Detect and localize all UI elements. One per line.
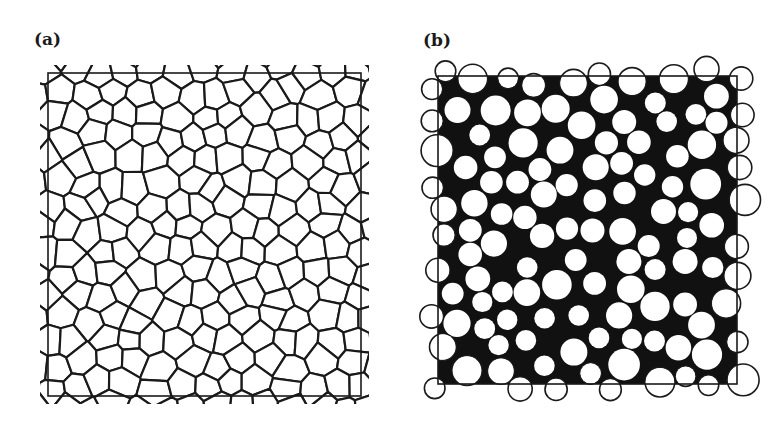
disk xyxy=(465,266,490,291)
foam-cell xyxy=(138,420,175,427)
disk xyxy=(484,146,506,168)
foam-cell xyxy=(271,0,315,62)
disk xyxy=(547,137,574,164)
disk xyxy=(595,131,618,154)
disk xyxy=(458,243,482,267)
foam-cell xyxy=(0,336,39,414)
foam-cell xyxy=(30,415,64,427)
foam-cell xyxy=(324,0,375,58)
disk xyxy=(699,213,724,238)
disk xyxy=(686,104,707,125)
disk xyxy=(565,249,587,271)
foam-cell xyxy=(87,420,111,427)
disk xyxy=(656,111,677,132)
disk xyxy=(692,340,722,370)
disk xyxy=(706,112,728,134)
disk xyxy=(497,310,517,330)
disk xyxy=(469,125,490,146)
disk xyxy=(472,292,492,312)
disk xyxy=(454,156,478,180)
foam-cell xyxy=(181,0,212,62)
disk xyxy=(644,331,665,352)
foam-cell xyxy=(71,0,163,59)
disk xyxy=(509,128,538,157)
foam-cell xyxy=(0,277,37,313)
disk xyxy=(651,199,676,224)
disk xyxy=(688,131,716,159)
disk xyxy=(662,176,683,197)
disk xyxy=(461,190,487,216)
disk xyxy=(583,272,606,295)
foam-cell xyxy=(369,49,405,80)
foam-cell xyxy=(0,227,34,282)
disk xyxy=(481,96,511,126)
foam-cell xyxy=(373,232,432,261)
disk xyxy=(581,219,605,243)
disk xyxy=(613,182,635,204)
disk xyxy=(442,283,464,305)
foam-cell xyxy=(68,0,100,61)
panel-b-label: (b) xyxy=(423,30,451,50)
disk xyxy=(608,349,640,381)
foam-cell xyxy=(0,301,36,393)
foam-cell xyxy=(230,390,254,419)
disk xyxy=(666,335,692,361)
foam-cell xyxy=(220,413,248,427)
disk xyxy=(678,202,698,222)
disk xyxy=(612,110,636,134)
foam-cell xyxy=(375,424,452,427)
disk xyxy=(584,189,607,212)
foam-cell xyxy=(356,25,380,68)
disk-packing-panel xyxy=(438,76,737,384)
disk xyxy=(531,182,557,208)
disk xyxy=(627,130,651,154)
foam-cell xyxy=(50,421,96,427)
foam-cell xyxy=(142,0,182,63)
disk xyxy=(506,171,529,194)
disk xyxy=(583,154,609,180)
foam-cell xyxy=(177,393,205,424)
disk xyxy=(610,152,633,175)
foam-cell xyxy=(0,167,46,197)
disk xyxy=(704,84,729,109)
panel-a-label: (a) xyxy=(34,29,61,49)
disk xyxy=(673,249,698,274)
disk xyxy=(491,203,513,225)
disk xyxy=(443,310,470,337)
disk xyxy=(514,99,541,126)
foam-cell xyxy=(373,286,409,321)
disk xyxy=(589,328,610,349)
foam-cell xyxy=(222,0,272,62)
disk xyxy=(488,335,508,355)
foam-cell xyxy=(375,98,427,125)
foam-cell xyxy=(0,136,36,176)
disk xyxy=(634,164,655,185)
foam-cell xyxy=(0,410,37,427)
disk xyxy=(617,276,645,304)
disk xyxy=(542,95,570,123)
foam-cell xyxy=(117,9,152,68)
disk xyxy=(673,293,697,317)
disk xyxy=(666,145,689,168)
disk xyxy=(688,312,715,339)
disk xyxy=(481,231,507,257)
foam-cell xyxy=(343,328,371,353)
disk xyxy=(492,282,513,303)
disk xyxy=(474,318,495,339)
disk xyxy=(622,329,642,349)
disk xyxy=(516,330,537,351)
disk xyxy=(530,224,554,248)
foam-cell xyxy=(7,347,48,383)
foam-cell xyxy=(255,4,282,68)
disk xyxy=(690,169,721,200)
disk xyxy=(542,270,572,300)
foam-cell xyxy=(109,417,138,427)
disk xyxy=(480,171,503,194)
disk xyxy=(638,235,660,257)
disk xyxy=(529,158,552,181)
disk xyxy=(616,249,641,274)
foam-cells xyxy=(0,0,464,427)
foam-cell xyxy=(240,415,274,427)
foam-cell xyxy=(247,418,321,427)
disk xyxy=(677,228,697,248)
